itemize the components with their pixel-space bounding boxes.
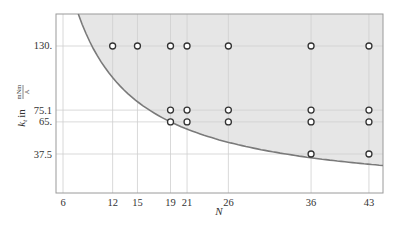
data-point [308,151,314,157]
x-tick-label: 19 [165,197,176,208]
data-point [225,107,231,113]
data-point [184,43,190,49]
svg-text:mNm: mNm [15,85,22,100]
data-point [308,119,314,125]
x-tick-label: 6 [60,197,65,208]
chart: 612151921263643 130.75.165.37.5 N ktin m… [0,0,399,225]
y-tick-label: 65. [39,116,52,127]
data-point [110,43,116,49]
data-point [134,43,140,49]
x-tick-label: 43 [364,197,375,208]
y-tick-labels: 130.75.165.37.5 [34,40,52,159]
y-tick-label: 75.1 [34,105,52,116]
data-point [366,107,372,113]
data-point [184,107,190,113]
x-axis-label: N [214,205,223,217]
y-tick-label: 130. [34,40,52,51]
data-point [308,107,314,113]
x-tick-label: 26 [223,197,234,208]
x-tick-label: 15 [132,197,143,208]
data-point [366,43,372,49]
data-point [366,119,372,125]
data-point [168,119,174,125]
x-tick-label: 12 [107,197,118,208]
x-tick-label: 21 [182,197,193,208]
y-tick-label: 37.5 [34,149,52,160]
data-point [168,107,174,113]
x-tick-label: 36 [306,197,317,208]
svg-text:A: A [23,89,30,94]
data-point [225,119,231,125]
data-point [366,151,372,157]
y-axis-label: ktin mNm A [15,85,30,127]
data-point [184,119,190,125]
data-point [225,43,231,49]
data-point [168,43,174,49]
data-point [308,43,314,49]
svg-text:ktin: ktin [15,109,29,127]
